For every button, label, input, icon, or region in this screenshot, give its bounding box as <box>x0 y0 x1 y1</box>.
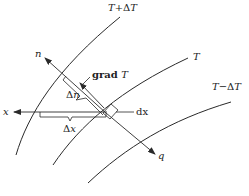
heat-conduction-diagram: T+ΔT T T−ΔT n grad T Δn x dx Δx q <box>0 0 249 196</box>
label-t-minus-dt: T−ΔT <box>212 82 241 92</box>
label-delta-x: Δx <box>63 124 76 134</box>
label-grad-var: T <box>121 69 128 80</box>
label-t-minus-dt-t: T <box>212 81 219 92</box>
label-grad-t: grad T <box>92 70 128 80</box>
label-delta-n-var: n <box>73 89 79 100</box>
label-dx: dx <box>136 107 148 117</box>
label-q: q <box>158 151 164 161</box>
figure-caption-clipped <box>40 190 210 196</box>
label-t-plus-dt-t: T <box>108 2 115 13</box>
label-t-minus-dt-tail: T <box>234 81 241 92</box>
label-t-minus-dt-op: −Δ <box>219 81 235 92</box>
label-delta-x-var: x <box>70 123 76 134</box>
normal-n-axis <box>45 58 106 113</box>
isotherm-t-minus-dt <box>88 102 231 183</box>
label-grad-word: grad <box>92 69 121 80</box>
label-t-plus-dt-tail: T <box>130 2 137 13</box>
isotherm-t-plus-dt <box>16 17 120 155</box>
label-t-plus-dt: T+ΔT <box>108 3 137 13</box>
heat-flux-q-arrow <box>106 113 155 154</box>
label-t: T <box>193 52 200 62</box>
grad-t-leader <box>83 77 90 84</box>
label-delta-n: Δn <box>66 90 80 100</box>
label-n: n <box>35 49 41 59</box>
label-x: x <box>3 107 9 117</box>
diagram-graphics <box>0 0 249 196</box>
label-t-plus-dt-op: +Δ <box>115 2 131 13</box>
